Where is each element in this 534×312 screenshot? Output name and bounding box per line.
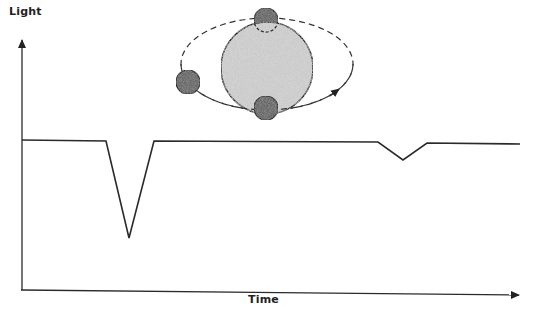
y-axis-label: Light — [9, 5, 42, 18]
light-curve — [22, 140, 520, 238]
orbit-direction-arrow-icon — [330, 89, 339, 96]
x-axis-label: Time — [248, 293, 279, 306]
planet-transiting — [254, 96, 278, 120]
light-curve-diagram — [0, 0, 534, 312]
planet-left — [176, 70, 200, 94]
